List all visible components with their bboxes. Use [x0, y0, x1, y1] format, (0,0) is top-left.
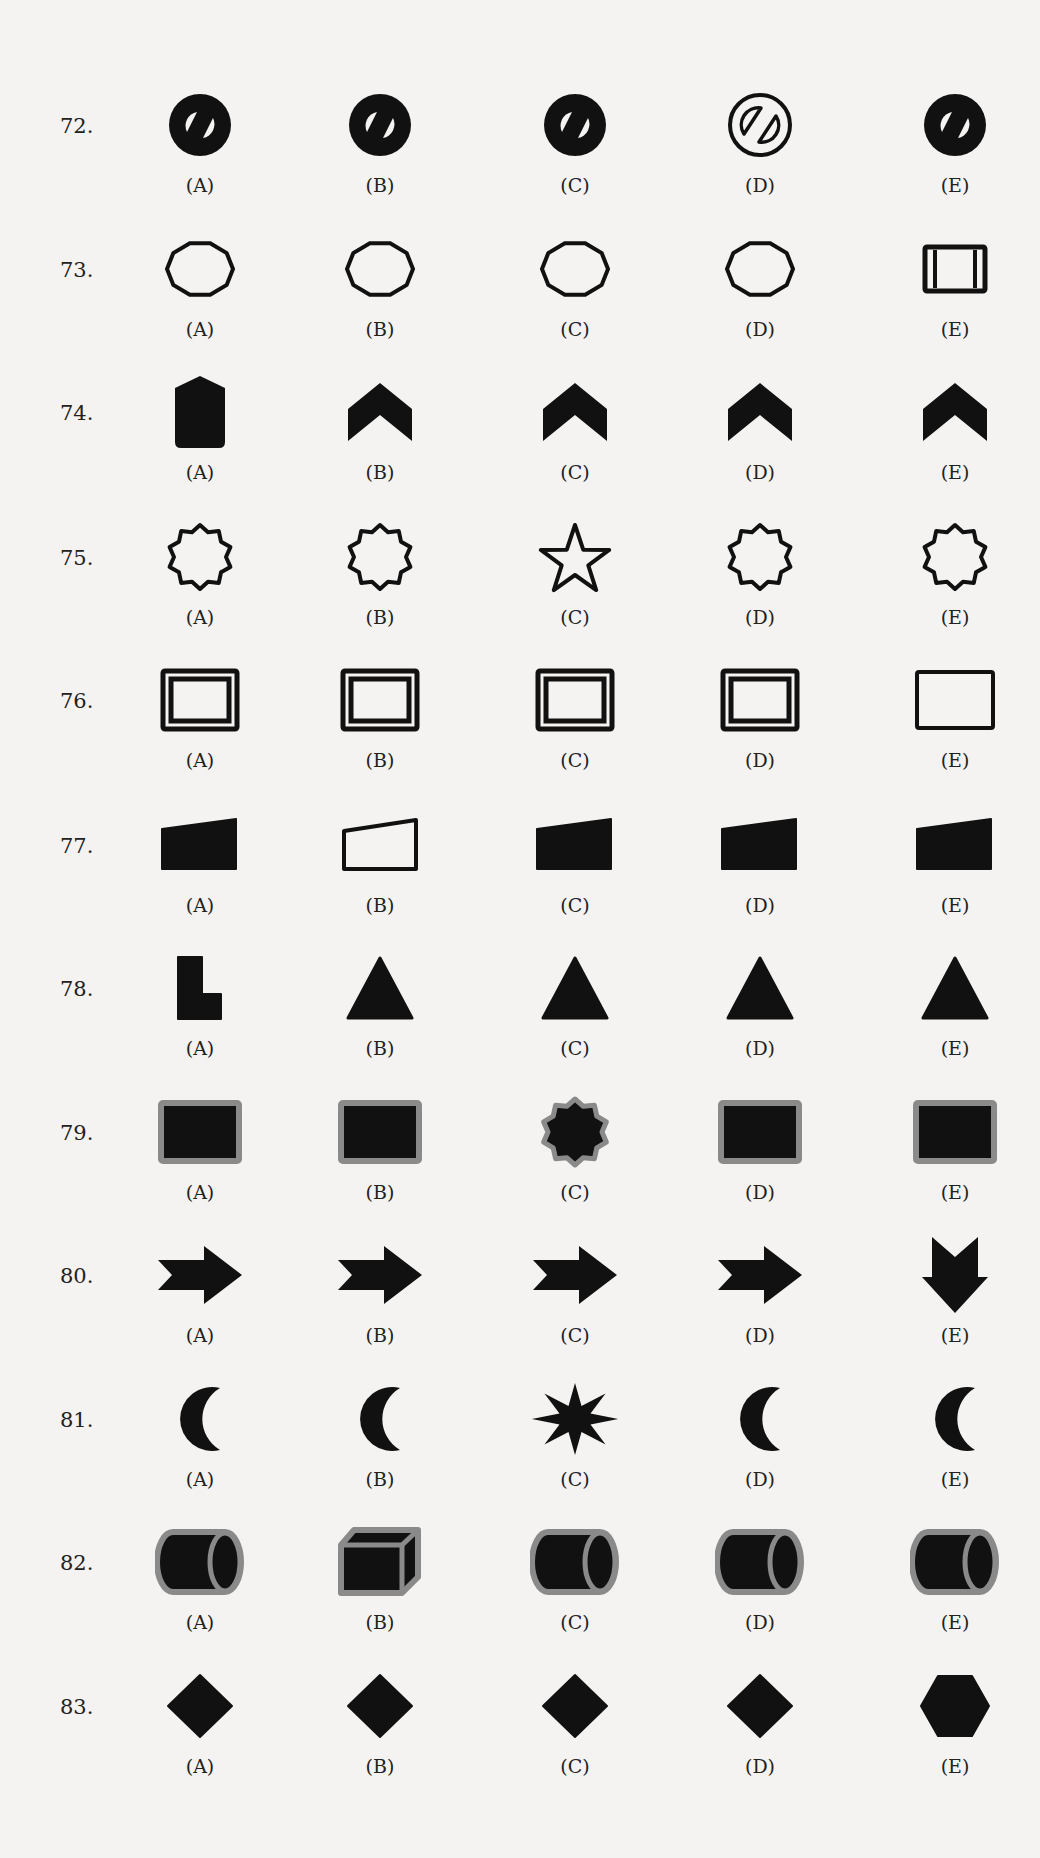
- answer-option[interactable]: (C): [510, 943, 640, 1086]
- answer-option[interactable]: (A): [135, 512, 265, 655]
- solid-arrow-right-icon: [330, 1230, 430, 1320]
- answer-option[interactable]: (C): [510, 1374, 640, 1517]
- answer-option[interactable]: (E): [890, 80, 1020, 223]
- answer-option[interactable]: (E): [890, 224, 1020, 367]
- option-label: (B): [366, 1324, 395, 1346]
- answer-option[interactable]: (C): [510, 512, 640, 655]
- answer-option[interactable]: (D): [695, 1374, 825, 1517]
- option-label: (A): [186, 174, 215, 196]
- question-number: 79.: [60, 1121, 93, 1145]
- answer-option[interactable]: (E): [890, 1087, 1020, 1230]
- answer-option[interactable]: (D): [695, 800, 825, 943]
- answer-option[interactable]: (A): [135, 1230, 265, 1373]
- answer-option[interactable]: (B): [315, 1230, 445, 1373]
- black-star-gray-border-icon: [525, 1087, 625, 1177]
- decagon-outline-icon: [150, 224, 250, 314]
- solid-crescent-icon: [710, 1374, 810, 1464]
- answer-option[interactable]: (B): [315, 655, 445, 798]
- answer-option[interactable]: (E): [890, 1374, 1020, 1517]
- answer-option[interactable]: (B): [315, 800, 445, 943]
- question-number: 77.: [60, 834, 93, 858]
- answer-option[interactable]: (D): [695, 1087, 825, 1230]
- answer-option[interactable]: (D): [695, 655, 825, 798]
- answer-option[interactable]: (D): [695, 1661, 825, 1804]
- answer-option[interactable]: (C): [510, 1230, 640, 1373]
- answer-option[interactable]: (E): [890, 655, 1020, 798]
- option-label: (A): [186, 1468, 215, 1490]
- option-label: (D): [745, 1037, 775, 1059]
- question-number: 75.: [60, 546, 93, 570]
- option-label: (D): [745, 1324, 775, 1346]
- question-number: 80.: [60, 1264, 93, 1288]
- question-row: 81. (A) (B) (C) (D) (E): [0, 1374, 1040, 1517]
- option-label: (C): [560, 1181, 589, 1203]
- answer-option[interactable]: (A): [135, 80, 265, 223]
- answer-option[interactable]: (B): [315, 512, 445, 655]
- option-label: (C): [560, 894, 589, 916]
- question-number: 74.: [60, 401, 93, 425]
- answer-option[interactable]: (E): [890, 1230, 1020, 1373]
- answer-option[interactable]: (E): [890, 943, 1020, 1086]
- answer-option[interactable]: (B): [315, 943, 445, 1086]
- answer-option[interactable]: (D): [695, 224, 825, 367]
- answer-option[interactable]: (C): [510, 367, 640, 510]
- answer-option[interactable]: (D): [695, 367, 825, 510]
- answer-option[interactable]: (C): [510, 800, 640, 943]
- answer-option[interactable]: (A): [135, 1087, 265, 1230]
- answer-option[interactable]: (D): [695, 80, 825, 223]
- question-number: 76.: [60, 689, 93, 713]
- answer-option[interactable]: (B): [315, 367, 445, 510]
- answer-option[interactable]: (A): [135, 1661, 265, 1804]
- answer-option[interactable]: (D): [695, 1517, 825, 1660]
- answer-option[interactable]: (B): [315, 1087, 445, 1230]
- option-label: (E): [941, 318, 970, 340]
- answer-option[interactable]: (C): [510, 1661, 640, 1804]
- black-rectangle-gray-border-icon: [905, 1087, 1005, 1177]
- answer-option[interactable]: (B): [315, 1661, 445, 1804]
- answer-option[interactable]: (B): [315, 1517, 445, 1660]
- solid-trapezoid-icon: [905, 800, 1005, 890]
- answer-option[interactable]: (A): [135, 224, 265, 367]
- answer-option[interactable]: (C): [510, 1087, 640, 1230]
- answer-option[interactable]: (E): [890, 1661, 1020, 1804]
- decagon-outline-icon: [710, 224, 810, 314]
- answer-option[interactable]: (A): [135, 655, 265, 798]
- question-row: 76. (A) (B) (C) (D) (E): [0, 655, 1040, 798]
- answer-option[interactable]: (A): [135, 1374, 265, 1517]
- question-row: 80. (A) (B) (C) (D) (E): [0, 1230, 1040, 1373]
- answer-option[interactable]: (C): [510, 655, 640, 798]
- solid-diamond-icon: [525, 1661, 625, 1751]
- answer-option[interactable]: (E): [890, 512, 1020, 655]
- question-number: 78.: [60, 977, 93, 1001]
- answer-option[interactable]: (C): [510, 80, 640, 223]
- answer-option[interactable]: (E): [890, 800, 1020, 943]
- answer-option[interactable]: (C): [510, 224, 640, 367]
- answer-option[interactable]: (B): [315, 1374, 445, 1517]
- solid-arrow-right-icon: [525, 1230, 625, 1320]
- answer-option[interactable]: (A): [135, 1517, 265, 1660]
- answer-option[interactable]: (A): [135, 800, 265, 943]
- solid-triangle-icon: [330, 943, 430, 1033]
- answer-option[interactable]: (E): [890, 367, 1020, 510]
- option-label: (C): [560, 1324, 589, 1346]
- answer-option[interactable]: (D): [695, 943, 825, 1086]
- option-label: (D): [745, 749, 775, 771]
- option-label: (D): [745, 1468, 775, 1490]
- option-label: (B): [366, 606, 395, 628]
- black-rectangle-gray-border-icon: [710, 1087, 810, 1177]
- solid-diamond-icon: [710, 1661, 810, 1751]
- solid-diamond-icon: [330, 1661, 430, 1751]
- answer-option[interactable]: (C): [510, 1517, 640, 1660]
- answer-option[interactable]: (B): [315, 224, 445, 367]
- answer-option[interactable]: (D): [695, 1230, 825, 1373]
- solid-circle-with-slash-icon: [525, 80, 625, 170]
- solid-chevron-up-icon: [525, 367, 625, 457]
- answer-option[interactable]: (E): [890, 1517, 1020, 1660]
- answer-option[interactable]: (A): [135, 367, 265, 510]
- option-label: (A): [186, 1324, 215, 1346]
- answer-option[interactable]: (D): [695, 512, 825, 655]
- solid-circle-with-slash-icon: [150, 80, 250, 170]
- answer-option[interactable]: (B): [315, 80, 445, 223]
- black-rectangle-gray-border-icon: [330, 1087, 430, 1177]
- answer-option[interactable]: (A): [135, 943, 265, 1086]
